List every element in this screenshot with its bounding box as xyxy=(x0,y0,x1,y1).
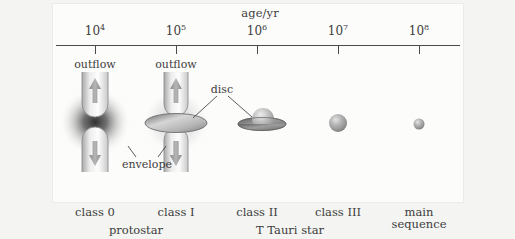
tick-base: 10 xyxy=(247,24,262,38)
axis-tick-3 xyxy=(257,45,258,54)
outflow-label-class-0: outflow xyxy=(74,58,116,71)
axis-tick-2 xyxy=(176,45,177,54)
axis-tick-5 xyxy=(419,45,420,54)
axis-tick-label-2: 105 xyxy=(166,23,186,38)
stage-label-class-0: class 0 xyxy=(75,206,115,218)
axis-tick-label-3: 106 xyxy=(247,23,267,38)
tick-exponent: 6 xyxy=(262,23,267,32)
tick-exponent: 5 xyxy=(181,23,186,32)
age-axis-line xyxy=(56,45,460,46)
axis-tick-1 xyxy=(95,45,96,54)
tick-base: 10 xyxy=(85,24,100,38)
axis-tick-label-5: 108 xyxy=(409,23,429,38)
axis-tick-4 xyxy=(338,45,339,54)
tick-base: 10 xyxy=(328,24,343,38)
disc-label: disc xyxy=(211,83,233,96)
axis-title: age/yr xyxy=(241,6,279,20)
group-label-protostar: protostar xyxy=(109,223,163,237)
outflow-label-class-1: outflow xyxy=(155,58,197,71)
tick-base: 10 xyxy=(166,24,181,38)
stage-label-class-2: class II xyxy=(236,206,278,218)
tick-base: 10 xyxy=(409,24,424,38)
tick-exponent: 7 xyxy=(343,23,348,32)
group-label-t-tauri-star: T Tauri star xyxy=(256,223,324,237)
star-formation-diagram: age/yr 104 105 106 107 108 outflow outfl… xyxy=(0,0,515,239)
axis-tick-label-4: 107 xyxy=(328,23,348,38)
axis-tick-label-1: 104 xyxy=(85,23,105,38)
envelope-label: envelope xyxy=(122,158,172,171)
stage-label-main-sequence: main sequence xyxy=(392,206,447,230)
tick-exponent: 4 xyxy=(100,23,105,32)
stage-label-class-1: class I xyxy=(158,206,195,218)
stage-label-class-3: class III xyxy=(315,206,361,218)
tick-exponent: 8 xyxy=(424,23,429,32)
